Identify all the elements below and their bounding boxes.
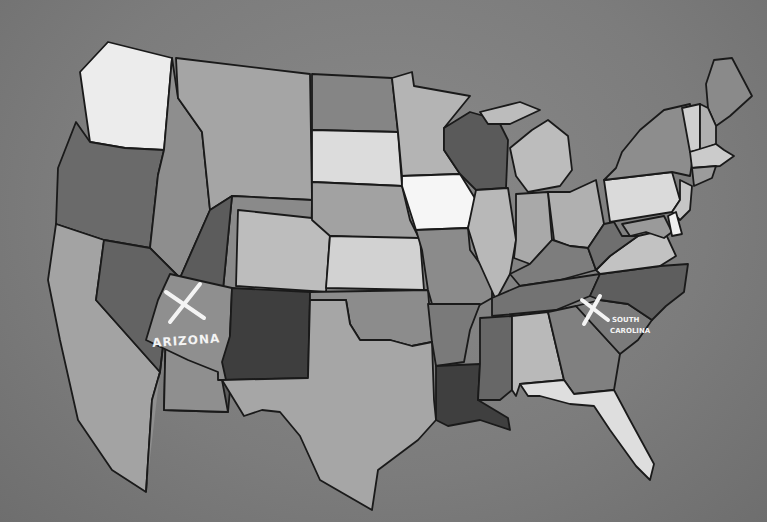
state-new-mexico[interactable]: [222, 288, 310, 380]
south-carolina-label-line2: CAROLINA: [610, 327, 651, 335]
state-connecticut[interactable]: [692, 166, 716, 186]
south-carolina-label-line1: SOUTH: [612, 316, 639, 324]
state-washington[interactable]: [80, 42, 172, 150]
state-mississippi[interactable]: [478, 316, 512, 400]
us-map: ARIZONA SOUTH CAROLINA: [0, 0, 767, 522]
state-south-dakota[interactable]: [312, 130, 402, 186]
state-iowa[interactable]: [402, 174, 476, 230]
state-florida[interactable]: [520, 380, 654, 480]
state-new-york[interactable]: [604, 104, 694, 180]
state-arkansas[interactable]: [428, 304, 480, 366]
state-kansas[interactable]: [326, 236, 424, 290]
us-map-svg: ARIZONA SOUTH CAROLINA: [0, 0, 767, 522]
state-maine[interactable]: [706, 58, 752, 126]
state-north-dakota[interactable]: [312, 74, 398, 132]
